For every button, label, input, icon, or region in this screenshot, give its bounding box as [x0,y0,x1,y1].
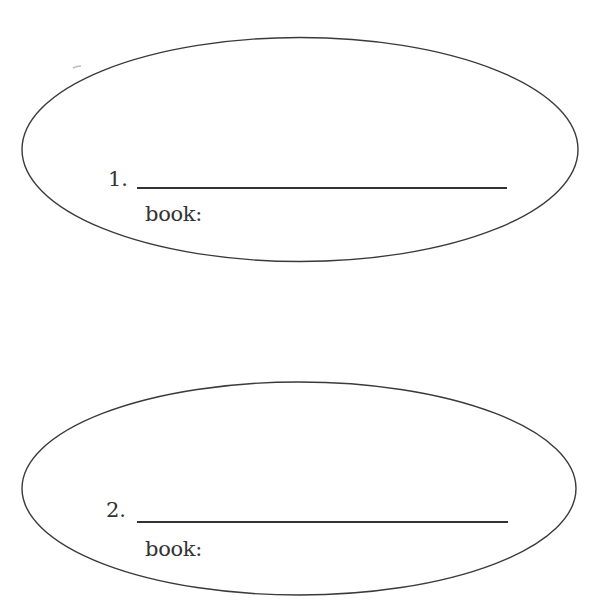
item-number-label: 1. [108,169,128,190]
oval-frame-2 [22,382,576,595]
book-label: book: [145,539,202,560]
book-label: book: [145,204,202,225]
item-number-label: 2. [106,500,126,521]
oval-frame-1 [22,38,578,262]
scan-artifact-mark [73,66,81,68]
worksheet-canvas [0,0,590,603]
answer-blank-line[interactable] [137,187,507,189]
answer-blank-line[interactable] [137,521,508,523]
